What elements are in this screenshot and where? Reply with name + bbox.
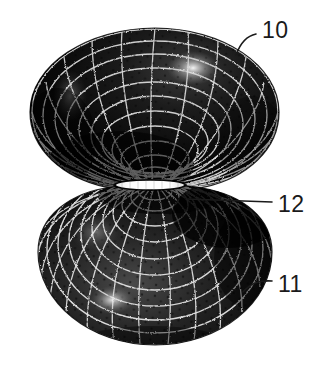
reference-label-12: 12 — [278, 191, 305, 217]
reference-label-11: 11 — [278, 271, 303, 297]
waist-slit-opening — [113, 179, 187, 191]
figure-drawing: 10 12 11 — [0, 0, 320, 368]
patent-figure: 10 12 11 — [0, 0, 320, 368]
reference-label-10: 10 — [262, 17, 289, 43]
